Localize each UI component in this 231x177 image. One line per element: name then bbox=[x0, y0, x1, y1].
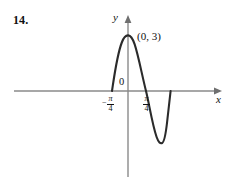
fraction-denominator: 4 bbox=[109, 105, 113, 114]
fraction-numerator: π bbox=[108, 95, 114, 104]
fraction-pi-over-4-right: π 4 bbox=[143, 95, 150, 113]
fraction-numerator: π bbox=[143, 95, 149, 104]
math-figure: 14. y x (0, 3) 0 − π 4 π 4 bbox=[0, 0, 231, 177]
x-axis-label: x bbox=[216, 94, 221, 105]
fraction-denominator: 4 bbox=[145, 105, 149, 114]
tick-label-pi-over-4: π 4 bbox=[143, 95, 150, 113]
y-axis-label: y bbox=[113, 12, 118, 23]
graph-canvas bbox=[0, 0, 231, 177]
y-axis bbox=[125, 15, 132, 177]
cosine-curve bbox=[112, 35, 171, 143]
x-axis bbox=[14, 87, 222, 94]
point-label-0-3: (0, 3) bbox=[137, 31, 161, 42]
tick-label-negative-pi-over-4: − π 4 bbox=[102, 95, 114, 113]
origin-label: 0 bbox=[119, 77, 124, 88]
fraction-pi-over-4-left: π 4 bbox=[107, 95, 114, 113]
